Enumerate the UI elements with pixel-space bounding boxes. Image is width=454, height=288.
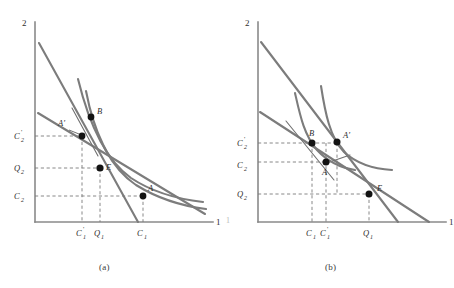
panel-a-y-tick-1-sub: 2 [21, 169, 24, 175]
panel-b-x-tick-0-sub: 1 [313, 234, 316, 240]
panel-b-y-tick-0-sub: 2 [244, 144, 247, 150]
panel-b-x-tick-2: Q 1 [363, 228, 373, 240]
panel-b-x-tick-0-label: C [306, 228, 312, 238]
panel-a-caption: (a) [99, 262, 110, 272]
panel-a-point-label-b: B [97, 106, 102, 116]
panel-a-y-tick-1: Q 2 [14, 163, 24, 175]
panel-b-point-b [309, 140, 316, 147]
panel-b-y-tick-1: C 2 [237, 160, 247, 172]
panel-a-x-tick-2-sub: 1 [144, 234, 147, 240]
panel-a-x-tick-0-label: C [76, 228, 82, 238]
panel-b-x-tick-1-label: C [320, 228, 326, 238]
panel-a-x-tick-0-sub: 1 [83, 234, 86, 240]
panel-a-y-tick-2-label: C [14, 191, 20, 201]
panel-a-y-tick-0-prime: ' [21, 128, 22, 136]
panel-b-point-label-a-prime: A' [342, 130, 350, 140]
panel-a-y-tick-2: C 2 [14, 191, 24, 203]
panel-a-indifference-curve-low [78, 79, 203, 202]
panel-b-point-a [323, 159, 330, 166]
panel-a: 2 1 C 2 ' Q 2 C 2 C 1 ' Q 1 C 1 [0, 0, 224, 255]
panel-a-y-tick-0: C 2 ' [14, 128, 24, 143]
panel-a-compensated-budget-line [72, 108, 98, 156]
panel-b-y-tick-1-sub: 2 [244, 166, 247, 172]
panel-b-x-tick-1-sub: 1 [327, 234, 330, 240]
panel-a-point-a-prime [79, 133, 86, 140]
panel-a-x-axis-label: 1 [216, 217, 221, 227]
panel-a-point-label-a: A [147, 183, 154, 193]
panel-b: 2 1 C 2 ' C 2 Q 2 C 1 C 1 ' Q 1 [224, 0, 454, 255]
panel-a-x-tick-1-sub: 1 [101, 234, 104, 240]
panel-a-point-a [140, 193, 147, 200]
panel-a-x-tick-0-prime: ' [83, 225, 84, 233]
panel-a-point-label-e: E [105, 162, 112, 172]
panel-b-y-axis-label: 2 [245, 18, 250, 28]
figure-container: 2 1 C 2 ' Q 2 C 2 C 1 ' Q 1 C 1 [0, 0, 454, 288]
panel-a-x-tick-0: C 1 ' [76, 225, 86, 240]
panel-a-y-tick-1-label: Q [14, 163, 20, 173]
panel-b-y-tick-0-prime: ' [244, 135, 245, 143]
panel-a-x-tick-2-label: C [137, 228, 143, 238]
panel-b-point-label-e: E [376, 183, 383, 193]
panel-b-y-tick-2-label: Q [237, 189, 243, 199]
panel-b-x-tick-0: C 1 [306, 228, 316, 240]
panel-a-y-tick-0-sub: 2 [21, 137, 24, 143]
panel-b-caption: (b) [325, 262, 336, 272]
panel-b-x-tick-1: C 1 ' [320, 225, 330, 240]
panel-a-y-axis-label: 2 [22, 18, 27, 28]
panel-b-y-tick-2: Q 2 [237, 189, 247, 201]
panel-a-y-tick-0-label: C [14, 131, 20, 141]
panel-b-y-tick-1-label: C [237, 160, 243, 170]
panel-b-y-tick-0-label: C [237, 138, 243, 148]
panel-b-point-label-b: B [309, 128, 314, 138]
panel-a-y-tick-2-sub: 2 [21, 197, 24, 203]
panel-a-point-label-a-prime: A' [57, 118, 65, 128]
panel-a-x-tick-1: Q 1 [94, 228, 104, 240]
panel-b-x-tick-2-label: Q [363, 228, 369, 238]
panel-a-steep-budget-line [39, 43, 138, 222]
panel-a-x-tick-2: C 1 [137, 228, 147, 240]
panel-b-x-axis-label: 1 [449, 217, 454, 227]
panel-b-x-tick-2-sub: 1 [370, 234, 373, 240]
panel-a-point-e [96, 164, 103, 171]
panel-a-point-b [88, 114, 95, 121]
panel-a-x-tick-1-label: Q [94, 228, 100, 238]
panel-b-point-label-a: A [321, 167, 328, 177]
panel-a-indifference-curve-high [86, 91, 206, 209]
panel-b-steep-budget-line [261, 42, 398, 222]
panel-b-point-a-prime [334, 139, 341, 146]
panel-b-y-tick-2-sub: 2 [244, 195, 247, 201]
panel-b-y-tick-0: C 2 ' [237, 135, 247, 150]
panel-b-x-tick-1-prime: ' [327, 225, 328, 233]
panel-b-point-e [366, 191, 373, 198]
stray-axis-numeral: 1 [226, 216, 230, 225]
